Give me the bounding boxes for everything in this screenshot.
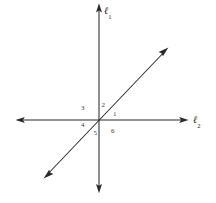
line-transversal-arrowhead-lower-left (44, 170, 54, 179)
line-label-l1: ℓ1 (104, 6, 111, 20)
line-transversal-arrowhead-upper-right (159, 48, 169, 57)
angle-label-5: 5 (94, 130, 98, 137)
angle-label-4: 4 (81, 122, 85, 129)
line-transversal-shaft (48, 53, 163, 174)
geometry-diagram: 1 2 3 4 5 6 ℓ1 ℓ2 (0, 0, 216, 203)
line-label-l2: ℓ2 (193, 115, 200, 129)
line-label-l2-subscript: 2 (197, 122, 200, 129)
line-label-l1-subscript: 1 (108, 13, 111, 20)
angle-label-3: 3 (81, 105, 85, 112)
line-transversal-group (44, 48, 169, 179)
line-l1-group (96, 3, 102, 193)
angle-label-1: 1 (113, 111, 117, 118)
angle-label-2: 2 (102, 102, 106, 109)
figure-canvas (0, 0, 216, 203)
angle-label-6: 6 (111, 128, 115, 135)
